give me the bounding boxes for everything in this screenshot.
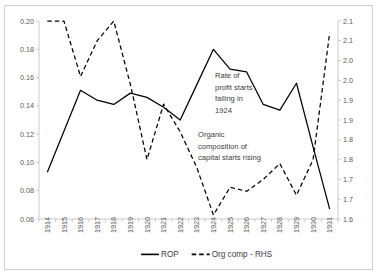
y2-axis-tick-label: 1.7 <box>343 175 353 184</box>
line-chart-plot: 0.060.080.100.120.140.160.180.20 1.61.71… <box>5 6 372 269</box>
x-axis-tick-label: 1927 <box>259 217 268 233</box>
chart-legend: ROPOrg comp - RHS <box>141 250 273 259</box>
y-axis-tick-label: 0.06 <box>20 215 34 224</box>
annotation-line: composition of <box>198 142 248 151</box>
series-line-rop <box>47 49 329 209</box>
y2-axis-tick-label: 2.1 <box>343 17 353 26</box>
x-axis-tick-label: 1914 <box>43 217 52 233</box>
rop-annotation: Rate ofprofit startsfalling in1924 <box>215 71 253 115</box>
x-axis-tick-label: 1921 <box>159 217 168 233</box>
x-axis-tick-label: 1931 <box>325 217 334 233</box>
x-axis-tick-label: 1924 <box>209 217 218 233</box>
y-axis-tick-label: 0.18 <box>20 45 34 54</box>
x-axis-tick-label: 1919 <box>126 217 135 233</box>
x-axis-tick-label: 1930 <box>309 217 318 233</box>
org-annotation: Organiccomposition ofcapital starts risi… <box>198 130 261 162</box>
legend-label: ROP <box>161 250 179 259</box>
y2-axis-tick-label: 1.6 <box>343 215 353 224</box>
x-axis: 1914191519161917191819191920192119221923… <box>39 217 338 233</box>
annotation-line: falling in <box>215 94 243 103</box>
chart-annotations: Rate ofprofit startsfalling in1924Organi… <box>198 71 261 162</box>
y-axis-right: 1.61.71.71.81.81.91.92.02.02.12.1 <box>338 17 353 224</box>
y-axis-tick-label: 0.20 <box>20 17 34 26</box>
chart-container: 0.060.080.100.120.140.160.180.20 1.61.71… <box>4 5 373 270</box>
y2-axis-tick-label: 2.1 <box>343 36 353 45</box>
legend-label: Org comp - RHS <box>212 250 273 259</box>
y2-axis-tick-label: 1.8 <box>343 155 353 164</box>
annotation-line: 1924 <box>215 106 232 115</box>
legend-item-org-comp-rhs[interactable]: Org comp - RHS <box>192 250 273 259</box>
x-axis-tick-label: 1923 <box>192 217 201 233</box>
x-axis-tick-label: 1926 <box>242 217 251 233</box>
x-axis-tick-label: 1920 <box>143 217 152 233</box>
legend-item-rop[interactable]: ROP <box>141 250 179 259</box>
y-axis-tick-label: 0.16 <box>20 73 34 82</box>
x-axis-tick-label: 1916 <box>76 217 85 233</box>
y-axis-tick-label: 0.14 <box>20 101 34 110</box>
y-axis-tick-label: 0.10 <box>20 158 34 167</box>
y2-axis-tick-label: 2.0 <box>343 56 353 65</box>
series-line-org-comp-rhs <box>47 21 329 215</box>
x-axis-tick-label: 1925 <box>226 217 235 233</box>
x-axis-tick-label: 1918 <box>109 217 118 233</box>
x-axis-tick-label: 1922 <box>176 217 185 233</box>
x-axis-tick-label: 1915 <box>60 217 69 233</box>
data-series-group <box>47 21 329 215</box>
annotation-line: profit starts <box>215 83 253 92</box>
y2-axis-tick-label: 1.8 <box>343 135 353 144</box>
y-axis-left: 0.060.080.100.120.140.160.180.20 <box>20 17 39 224</box>
annotation-line: capital starts rising <box>198 153 261 162</box>
y2-axis-tick-label: 1.9 <box>343 96 353 105</box>
y2-axis-tick-label: 1.7 <box>343 195 353 204</box>
y-axis-tick-label: 0.12 <box>20 130 34 139</box>
x-axis-tick-label: 1917 <box>93 217 102 233</box>
annotation-line: Rate of <box>215 71 240 80</box>
y2-axis-tick-label: 1.9 <box>343 116 353 125</box>
y-axis-tick-label: 0.08 <box>20 186 34 195</box>
x-axis-tick-label: 1928 <box>275 217 284 233</box>
annotation-line: Organic <box>198 130 225 139</box>
y2-axis-tick-label: 2.0 <box>343 76 353 85</box>
x-axis-tick-label: 1929 <box>292 217 301 233</box>
